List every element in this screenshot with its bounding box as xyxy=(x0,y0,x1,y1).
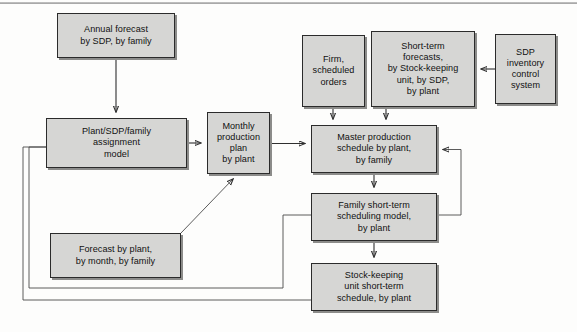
node-master-production-schedule: Master production schedule by plant, by … xyxy=(311,125,437,173)
node-family-short-term-scheduling-model: Family short-term scheduling model, by p… xyxy=(311,193,437,241)
connector-family-model-feedback-to-master-schedule xyxy=(437,150,461,216)
node-plant-sdp-family-assignment-model: Plant/SDP/family assignment model xyxy=(46,118,187,168)
connector-forecast-by-plant-to-monthly-plan xyxy=(181,179,233,233)
node-forecast-by-plant: Forecast by plant, by month, by family xyxy=(50,233,181,278)
node-monthly-production-plan: Monthly production plan by plant xyxy=(207,112,270,174)
flowchart-canvas: Annual forecast by SDP, by family Plant/… xyxy=(0,0,577,332)
node-annual-forecast: Annual forecast by SDP, by family xyxy=(57,13,175,58)
node-stock-keeping-unit-short-term-schedule: Stock-keeping unit short-term schedule, … xyxy=(311,263,437,311)
node-short-term-forecasts: Short-term forecasts, by Stock-keeping u… xyxy=(371,31,475,107)
node-firm-scheduled-orders: Firm, scheduled orders xyxy=(302,35,365,107)
node-sdp-inventory-control-system: SDP inventory control system xyxy=(495,34,556,104)
